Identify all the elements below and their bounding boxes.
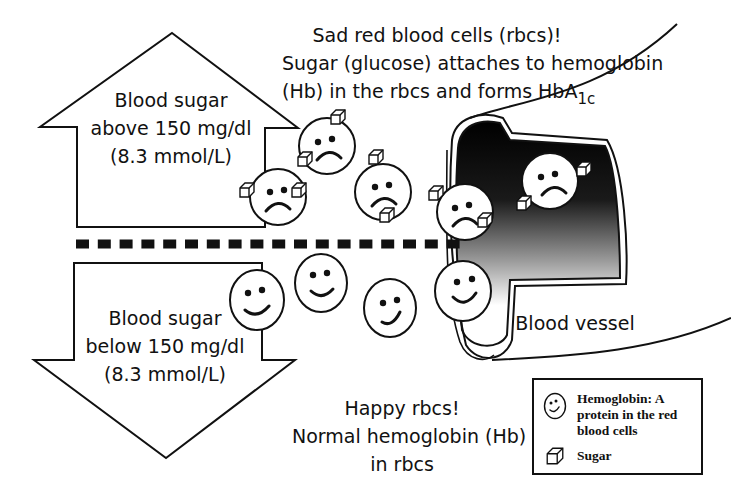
happy-cell	[364, 279, 416, 337]
top-caption-line-1: Sad red blood cells (rbcs)!	[282, 21, 592, 49]
sugar-cube-icon	[545, 446, 565, 466]
up-arrow-line-2: above 150 mg/dl	[76, 114, 266, 142]
bottom-caption: Happy rbcs! Normal hemoglobin (Hb) in rb…	[292, 394, 512, 478]
bottom-caption-line-3: in rbcs	[292, 450, 512, 478]
legend-hemoglobin-line-3: blood cells	[577, 423, 702, 439]
top-caption-line-2: Sugar (glucose) attaches to hemoglobin	[282, 49, 592, 77]
legend-hemoglobin-line-1: Hemoglobin: A	[577, 391, 702, 407]
legend-item-sugar: Sugar	[577, 448, 612, 464]
vessel-label: Blood vessel	[510, 309, 640, 337]
legend-item-hemoglobin: Hemoglobin: A protein in the red blood c…	[577, 391, 702, 439]
up-arrow-label: Blood sugar above 150 mg/dl (8.3 mmol/L)	[76, 86, 266, 170]
legend-hemoglobin-line-2: protein in the red	[577, 407, 702, 423]
legend: Hemoglobin: A protein in the red blood c…	[532, 378, 703, 475]
happy-cell	[435, 261, 491, 321]
sad-cell	[437, 184, 493, 240]
down-arrow-label: Blood sugar below 150 mg/dl (8.3 mmol/L)	[70, 304, 260, 388]
happy-face-icon	[543, 392, 567, 420]
bottom-caption-line-2: Normal hemoglobin (Hb)	[292, 422, 512, 450]
top-caption: Sad red blood cells (rbcs)! Sugar (gluco…	[282, 21, 592, 105]
hba1c-diagram: Sad red blood cells (rbcs)! Sugar (gluco…	[0, 0, 731, 484]
down-arrow-line-1: Blood sugar	[70, 304, 260, 332]
happy-cell	[295, 254, 347, 312]
down-arrow-line-3: (8.3 mmol/L)	[70, 360, 260, 388]
bottom-caption-line-1: Happy rbcs!	[292, 394, 512, 422]
hba1c-subscript: 1c	[577, 90, 595, 108]
up-arrow-line-1: Blood sugar	[76, 86, 266, 114]
up-arrow-line-3: (8.3 mmol/L)	[76, 142, 266, 170]
top-caption-line-3: (Hb) in the rbcs and forms HbA1c	[282, 77, 592, 105]
down-arrow-line-2: below 150 mg/dl	[70, 332, 260, 360]
top-caption-line-3-text: (Hb) in the rbcs and forms HbA	[282, 80, 577, 102]
